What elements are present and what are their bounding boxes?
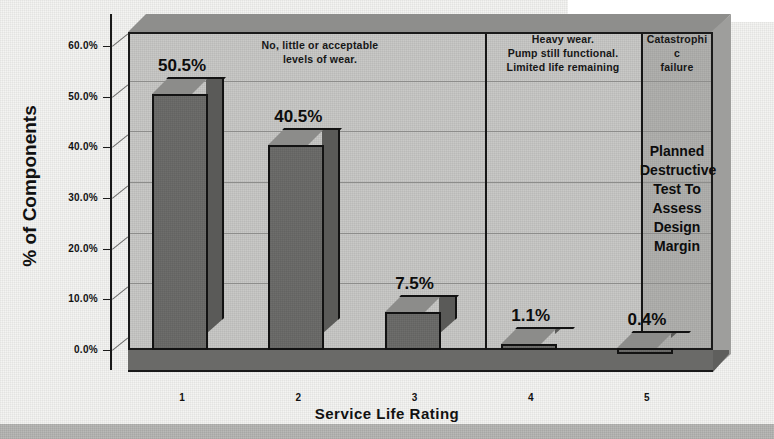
bar-side-face — [206, 78, 224, 334]
gridline — [130, 30, 711, 31]
y-axis-tick-label: 0.0% — [30, 344, 98, 355]
caption-line: Design — [640, 218, 714, 237]
y-axis-tick — [103, 46, 111, 47]
caption-line: Margin — [640, 237, 714, 256]
y-axis-tick — [103, 97, 111, 98]
y-axis-line — [110, 14, 112, 370]
bar-3[interactable] — [385, 312, 441, 350]
page-bottom-band — [0, 424, 774, 439]
bar-value-label-2: 40.5% — [253, 107, 343, 127]
x-axis-tick-label-4: 4 — [511, 392, 551, 403]
y-axis-tick-label: 50.0% — [30, 91, 98, 102]
caption-line: Assess — [640, 199, 714, 218]
x-axis-tick-label-2: 2 — [278, 392, 318, 403]
caption-line: Heavy wear. — [487, 32, 639, 46]
bar-front-face — [152, 94, 208, 350]
zone-divider-1 — [485, 34, 487, 350]
y-axis-tick — [103, 198, 111, 199]
caption-line: Test To — [640, 180, 714, 199]
zone-5-caption: Catastrophicfailure — [643, 32, 711, 74]
bar-5[interactable] — [617, 348, 673, 354]
y-axis-tick-label: 60.0% — [30, 40, 98, 51]
bar-value-label-5: 0.4% — [602, 310, 692, 330]
x-axis-tick-label-5: 5 — [627, 392, 667, 403]
caption-line: Planned — [640, 142, 714, 161]
bar-value-label-4: 1.1% — [486, 306, 576, 326]
bar-front-face — [268, 145, 324, 350]
y-axis-tick — [103, 249, 111, 250]
x-axis-tick-label-1: 1 — [162, 392, 202, 403]
zone-4-caption: Heavy wear.Pump still functional.Limited… — [487, 32, 639, 74]
plot-side-wall — [711, 14, 731, 374]
bar-front-face — [501, 344, 557, 350]
zone-1-3-caption: No, little or acceptablelevels of wear. — [170, 38, 470, 66]
bar-front-face — [617, 348, 673, 354]
bar-side-face — [322, 129, 340, 334]
caption-line: Limited life remaining — [487, 60, 639, 74]
caption-line: failure — [643, 60, 711, 74]
bar-4[interactable] — [501, 344, 557, 350]
bar-value-label-3: 7.5% — [370, 274, 460, 294]
zone-5-note: PlannedDestructiveTest ToAssessDesignMar… — [640, 142, 714, 256]
caption-line: levels of wear. — [170, 52, 470, 66]
caption-line: c — [643, 46, 711, 60]
bar-2[interactable] — [268, 145, 324, 350]
y-axis-title: % of Components — [19, 101, 41, 271]
plot-top-wedge — [128, 14, 731, 34]
y-axis-tick — [103, 299, 111, 300]
caption-line: Pump still functional. — [487, 46, 639, 60]
y-axis-tick — [103, 147, 111, 148]
caption-line: Destructive — [640, 161, 714, 180]
bar-front-face — [385, 312, 441, 350]
y-axis-tick — [103, 350, 111, 351]
x-axis-tick-label-3: 3 — [395, 392, 435, 403]
x-axis-title: Service Life Rating — [0, 405, 774, 422]
caption-line: Catastrophi — [643, 32, 711, 46]
y-axis-tick-label: 10.0% — [30, 293, 98, 304]
caption-line: No, little or acceptable — [170, 38, 470, 52]
bar-1[interactable] — [152, 94, 208, 350]
